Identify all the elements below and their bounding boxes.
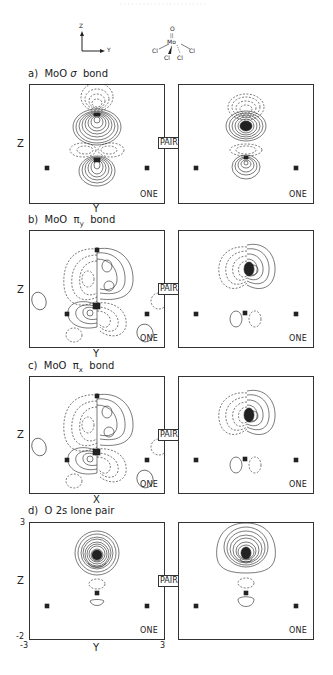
panel-b-right-plot: ONE [178, 230, 314, 348]
panel-label: c) [28, 360, 37, 371]
title-greek: σ [70, 68, 76, 79]
panel-a-xlabel: Y [93, 203, 99, 214]
title-suffix: bond [89, 360, 114, 371]
panel-c-title: c) MoO πx bond [28, 360, 114, 374]
one-label: ONE [289, 626, 307, 635]
panel-c-ylabel: Z [17, 429, 24, 440]
atom-marker [294, 312, 298, 316]
contour-plot [179, 377, 314, 494]
atom-marker [294, 604, 298, 608]
atom-marker [45, 604, 49, 608]
panel-label: a) [28, 68, 38, 79]
contour-plot [179, 231, 314, 348]
bonds-icon [150, 25, 200, 65]
panel-a-right-plot: ONE [178, 84, 314, 204]
title-main: MoO [44, 360, 67, 371]
panel-c-xlabel: X [93, 494, 100, 505]
one-label: ONE [140, 480, 158, 489]
panel-a-ylabel: Z [17, 138, 24, 149]
panel-c-right-plot: ONE [178, 376, 314, 494]
tick-y-top: 3 [20, 518, 25, 527]
atom-marker [194, 604, 198, 608]
contour-plot [179, 85, 314, 204]
pair-label: PAIR [158, 429, 180, 441]
title-subscript: x [79, 366, 83, 374]
atom-marker [194, 166, 198, 170]
panel-d-left-plot: ONE [29, 522, 165, 640]
panel-d-xlabel: Y [93, 642, 99, 653]
contour-plot [30, 85, 165, 204]
running-header: · · · · · · · · · · · · · · · · · · · · … [120, 0, 206, 7]
title-suffix: bond [83, 68, 108, 79]
tick-x-left: -3 [20, 641, 28, 650]
panel-a-title: a) MoO σ bond [28, 68, 108, 79]
atom-marker [294, 166, 298, 170]
panel-label: d) [28, 505, 38, 516]
pair-label: PAIR [158, 283, 180, 295]
atom-marker [145, 312, 149, 316]
axes-legend: Z Y [76, 26, 116, 56]
panel-b-xlabel: Y [93, 348, 99, 359]
panel-b-ylabel: Z [17, 284, 24, 295]
contour-plot [30, 231, 165, 348]
atom-marker [65, 458, 69, 462]
title-suffix: bond [90, 214, 115, 225]
pair-label: PAIR [158, 575, 180, 587]
tick-y-bottom: -2 [16, 632, 24, 641]
panel-b-title: b) MoO πy bond [28, 214, 115, 228]
atom-marker [294, 458, 298, 462]
title-main: MoO [44, 68, 67, 79]
molecule-diagram: O || Mo Cl Cl Cl Cl [150, 25, 200, 65]
atom-marker [145, 604, 149, 608]
panel-label: b) [28, 214, 38, 225]
title-main: O 2s lone pair [45, 505, 115, 516]
atom-marker [45, 166, 49, 170]
one-label: ONE [289, 480, 307, 489]
contour-plot [30, 523, 165, 640]
atom-marker [145, 458, 149, 462]
atom-cl-1: Cl [152, 47, 158, 54]
atom-cl-2: Cl [164, 54, 170, 61]
one-label: ONE [140, 334, 158, 343]
panel-b-left-plot: ONE [29, 230, 165, 348]
title-main: MoO [45, 214, 68, 225]
atom-marker [145, 166, 149, 170]
pair-label: PAIR [158, 137, 180, 149]
axis-y-label: Y [107, 46, 111, 53]
tick-x-right: 3 [160, 641, 165, 650]
panel-d-ylabel: Z [17, 575, 24, 586]
panel-d-title: d) O 2s lone pair [28, 505, 114, 516]
atom-marker [65, 312, 69, 316]
atom-cl-3: Cl [177, 54, 183, 61]
axis-z-label: Z [79, 22, 83, 29]
contour-plot [30, 377, 165, 494]
contour-plot [179, 523, 314, 640]
panel-a-left-plot: ONE [29, 84, 165, 204]
title-subscript: y [80, 220, 84, 228]
atom-marker [194, 458, 198, 462]
one-label: ONE [140, 190, 158, 199]
atom-cl-4: Cl [189, 47, 195, 54]
atom-marker [194, 312, 198, 316]
panel-c-left-plot: ONE [29, 376, 165, 494]
one-label: ONE [289, 190, 307, 199]
one-label: ONE [140, 626, 158, 635]
one-label: ONE [289, 334, 307, 343]
panel-d-right-plot: ONE [178, 522, 314, 640]
